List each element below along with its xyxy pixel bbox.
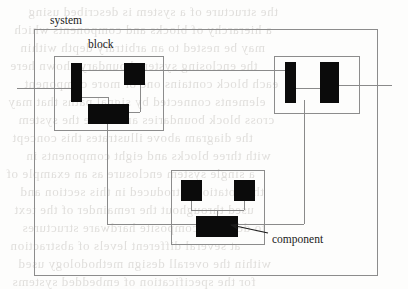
diagram-canvas: the structure of a system is described u… [0, 0, 408, 289]
component-callout-arrow [0, 0, 408, 289]
system-label: system [50, 14, 82, 26]
block-label: block [88, 38, 114, 50]
component-label: component [272, 233, 323, 245]
